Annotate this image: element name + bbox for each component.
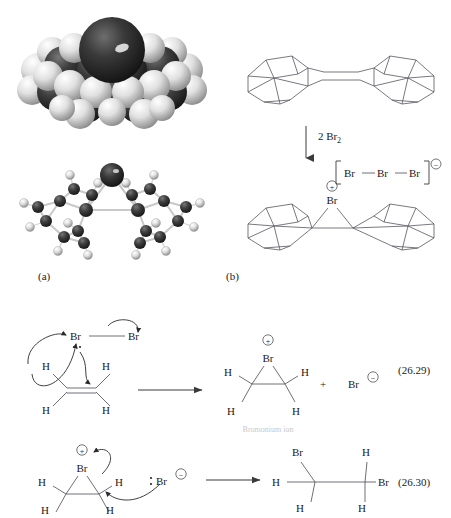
ball-and-stick-model [12, 155, 222, 260]
eq30-reactant-h3: H [41, 504, 49, 516]
eq30-reactant-h4: H [106, 504, 114, 516]
eq29-product-bromine: Br [263, 352, 274, 364]
panel-label-b: (b) [226, 268, 256, 284]
eq29-product-h2: H [301, 366, 309, 378]
eq30-nucleophile-charge: − [179, 471, 184, 480]
eq29-plus-sign: + [320, 378, 326, 390]
tribromide-charge: − [434, 161, 439, 170]
reagent-subscript: 2 [337, 136, 341, 145]
eq29-bromide-charge: − [371, 374, 376, 383]
equation-26-30: + Br H H H H Br − Br H H Br H H (26.30) [20, 440, 440, 514]
bromonium-bridge-charge: + [330, 183, 335, 192]
space-filling-model [12, 8, 212, 143]
eq29-product-h3: H [227, 405, 235, 417]
bromonium-product-structure: + Br [236, 180, 446, 262]
eq29-reactant-h4: H [102, 404, 110, 416]
eq30-reactant-charge: + [80, 447, 85, 456]
eq29-product-charge: + [266, 337, 271, 346]
eq29-bromide-atom: Br [348, 378, 359, 390]
eq29-product-h1: H [224, 366, 232, 378]
eq30-product-h2: H [362, 446, 370, 458]
eq29-number: (26.29) [398, 364, 430, 377]
eq29-reactant-h1: H [42, 360, 50, 372]
eq30-reactant-bromine: Br [77, 462, 88, 474]
eq30-product-h1: H [272, 476, 280, 488]
tribromide-atom-1: Br [344, 167, 355, 179]
eq30-number: (26.30) [398, 476, 430, 489]
eq30-product-h4: H [358, 502, 366, 514]
eq30-reactant-h2: H [115, 476, 123, 488]
eq29-product-h4: H [292, 405, 300, 417]
panel-b-label-text: (b) [226, 270, 239, 283]
eq29-bromine-atom-1: Br [70, 330, 81, 342]
panel-label-a: (a) [38, 268, 68, 284]
reagent-label: 2 Br [318, 130, 338, 142]
eq29-reactant-h2: H [102, 360, 110, 372]
eq30-product-br-top: Br [292, 446, 303, 458]
adamantylideneadamantane-reactant [236, 42, 446, 120]
tribromide-atom-2: Br [377, 167, 388, 179]
eq30-reactant-h1: H [38, 476, 46, 488]
eq30-product-br-right: Br [378, 476, 389, 488]
equation-26-29: Br Br H H H H + Br H H H H + Br − Bromon… [20, 322, 440, 444]
panel-a-label-text: (a) [38, 270, 51, 283]
eq29-reactant-h3: H [42, 404, 50, 416]
eq30-nucleophile-atom: Br [156, 475, 167, 487]
tribromide-atom-3: Br [409, 167, 420, 179]
bromonium-bridge-atom: Br [327, 194, 338, 206]
bromonium-ion-caption: Bromonium ion [243, 425, 294, 434]
eq30-product-h3: H [296, 502, 304, 514]
